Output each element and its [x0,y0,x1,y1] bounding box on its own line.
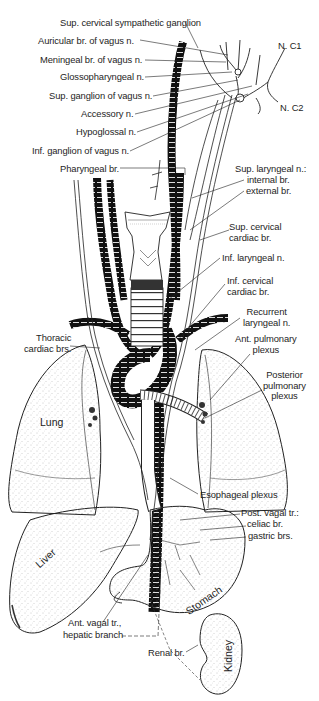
label-posterior-pulmonary-plexus: Posterior pulmonary plexus [263,370,306,402]
label-n-c2: N. C2 [280,103,303,114]
label-sup-laryngeal-nerve: Sup. laryngeal n.: [235,164,306,175]
label-ant-vagal-trunk: Ant. vagal tr., [68,618,121,629]
label-celiac-branch: celiac br. [247,519,283,530]
label-esophageal-plexus: Esophageal plexus [200,490,278,501]
label-recurrent-laryngeal-nerve: Recurrent laryngeal n. [243,307,290,328]
label-hypoglossal-nerve: Hypoglossal n. [76,127,136,138]
pharyngeal-branch [150,160,162,200]
label-thoracic-cardiac-branches: Thoracic cardiac brs. [24,333,71,354]
label-n-c1: N. C1 [278,41,301,52]
larynx-trachea [125,212,170,346]
kidney [200,614,242,694]
label-inf-laryngeal-nerve: Inf. laryngeal n. [222,253,284,264]
label-sup-cervical-sympathetic-ganglion: Sup. cervical sympathetic ganglion [60,18,201,29]
label-sup-cervical-cardiac-branch: Sup. cervical cardiac br. [229,222,281,243]
label-post-vagal-trunk: Post. vagal tr.: [241,508,299,519]
left-lung [9,345,101,515]
label-glossopharyngeal-nerve: Glossopharyngeal n. [60,72,144,83]
label-gastric-branches: gastric brs. [248,531,293,542]
label-inf-cervical-cardiac-branch: Inf. cervical cardiac br. [227,276,273,297]
label-inf-ganglion-vagus: Inf. ganglion of vagus n. [32,146,129,157]
label-sup-ganglion-vagus: Sup. ganglion of vagus n. [49,91,152,102]
label-kidney: Kidney [222,640,234,672]
label-auricular-branch: Auricular br. of vagus n. [38,36,134,47]
label-renal-branch: Renal br. [148,648,185,659]
label-hepatic-branch: hepatic branch [63,630,123,641]
label-accessory-nerve: Accessory n. [81,109,133,120]
vagus-nerve-diagram: Sup. cervical sympathetic ganglion Auric… [0,0,319,701]
cranial-nerve-roots [200,40,285,114]
label-pharyngeal-branch: Pharyngeal br. [60,164,119,175]
label-external-branch: external br. [246,186,291,197]
liver [10,507,139,633]
label-lung: Lung [40,416,63,428]
label-ant-pulmonary-plexus: Ant. pulmonary plexus [235,334,297,355]
label-internal-branch: internal br. [247,175,290,186]
label-meningeal-branch: Meningeal br. of vagus n. [40,55,142,66]
